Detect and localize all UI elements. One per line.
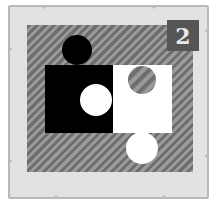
level-badge: 2: [167, 20, 199, 51]
black-puzzle-piece[interactable]: [45, 35, 113, 133]
hole-icon: [128, 66, 156, 94]
